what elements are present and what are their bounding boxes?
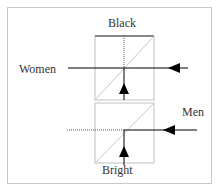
- label-women: Women: [19, 62, 56, 77]
- label-bright: Bright: [102, 163, 133, 178]
- arrow-left-icon: [168, 63, 180, 73]
- arrow-up-icon: [119, 146, 129, 157]
- label-black: Black: [108, 16, 136, 31]
- label-men: Men: [182, 105, 204, 120]
- arrow-up-icon: [119, 83, 129, 94]
- arrow-left-icon: [163, 125, 175, 135]
